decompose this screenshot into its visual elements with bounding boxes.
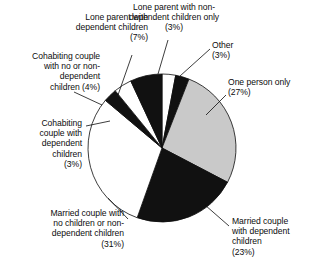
slice-label-cohabiting-non-dependent: Cohabiting couple with no or non- depend… xyxy=(4,51,100,92)
slice-label-other: Other (3%) xyxy=(212,40,272,60)
slice-label-one-person-only: One person only (27%) xyxy=(228,77,312,97)
slice-label-cohabiting-dependent: Cohabiting couple with dependent childre… xyxy=(6,118,82,169)
slice-label-married-dependent: Married couple with dependent children (… xyxy=(232,216,312,257)
leader-line-married-dependent xyxy=(205,205,229,226)
leader-line-other xyxy=(180,49,210,76)
slice-label-married-no-children: Married couple with no children or non- … xyxy=(6,208,124,249)
leader-line-cohabiting-non-dependent xyxy=(74,92,102,105)
pie-chart-figure: Lone parent with dependent children (7%)… xyxy=(0,0,314,274)
leader-line-lone-parent-non-dependent xyxy=(158,40,168,74)
slice-label-lone-parent-non-dependent: Lone parent with non- dependent children… xyxy=(118,2,230,33)
